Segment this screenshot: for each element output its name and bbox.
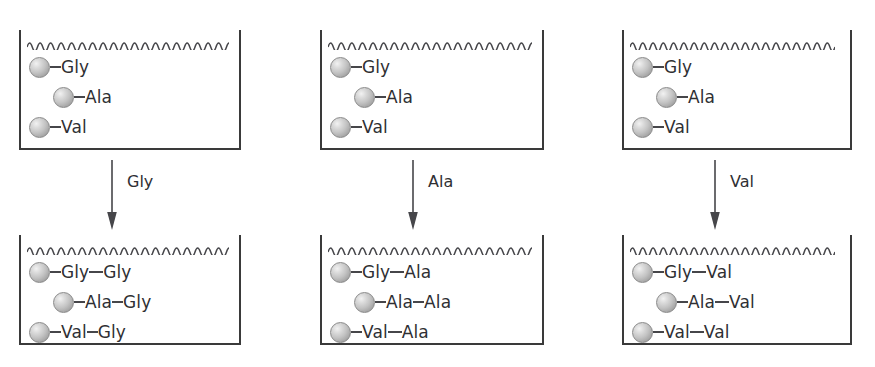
bond-line bbox=[351, 66, 362, 68]
residue-label: Val bbox=[664, 119, 690, 136]
resin-bead-icon bbox=[632, 262, 653, 283]
peptide-bond-line bbox=[89, 271, 103, 273]
synthesis-column-1: Gly Ala Val Gly bbox=[19, 0, 241, 367]
resin-bead-icon bbox=[656, 292, 677, 313]
molecule-row: Ala Val bbox=[624, 287, 850, 317]
bond-line bbox=[351, 126, 362, 128]
residue-label: Ala bbox=[402, 324, 429, 341]
peptide-bond-line bbox=[715, 301, 729, 303]
residue-label: Val bbox=[362, 324, 388, 341]
bond-line bbox=[677, 301, 688, 303]
bond-line bbox=[653, 126, 664, 128]
molecule-row: Gly bbox=[21, 52, 239, 82]
residue-label: Gly bbox=[362, 264, 390, 281]
peptide-bond-line bbox=[692, 271, 706, 273]
resin-bead-icon bbox=[29, 57, 50, 78]
molecule-rows: Gly Val Ala Val Val Val bbox=[624, 257, 850, 347]
reaction-arrow-3: Val bbox=[708, 160, 778, 232]
resin-bead-icon bbox=[53, 292, 74, 313]
bond-line bbox=[351, 331, 362, 333]
reaction-vessel-bottom-3: Gly Val Ala Val Val Val bbox=[622, 235, 852, 345]
residue-label: Gly bbox=[61, 59, 89, 76]
residue-label: Val bbox=[61, 119, 87, 136]
membrane-wave-icon bbox=[27, 38, 229, 50]
resin-bead-icon bbox=[632, 117, 653, 138]
molecule-row: Val Ala bbox=[322, 317, 542, 347]
resin-bead-icon bbox=[632, 57, 653, 78]
bond-line bbox=[653, 66, 664, 68]
residue-label: Val bbox=[664, 324, 690, 341]
resin-bead-icon bbox=[656, 87, 677, 108]
reaction-vessel-top-1: Gly Ala Val bbox=[19, 30, 241, 150]
residue-label: Gly bbox=[362, 59, 390, 76]
molecule-row: Gly Gly bbox=[21, 257, 239, 287]
resin-bead-icon bbox=[330, 262, 351, 283]
membrane-wave-icon bbox=[328, 243, 532, 255]
molecule-row: Ala bbox=[624, 82, 850, 112]
bond-line bbox=[50, 126, 61, 128]
reaction-arrow-label: Val bbox=[730, 172, 754, 191]
resin-bead-icon bbox=[330, 117, 351, 138]
molecule-row: Ala Ala bbox=[322, 287, 542, 317]
reaction-vessel-top-2: Gly Ala Val bbox=[320, 30, 544, 150]
synthesis-column-3: Gly Ala Val Val bbox=[622, 0, 852, 367]
resin-bead-icon bbox=[354, 87, 375, 108]
residue-label: Gly bbox=[61, 264, 89, 281]
bond-line bbox=[351, 271, 362, 273]
molecule-row: Val bbox=[21, 112, 239, 142]
molecule-rows: Gly Ala Ala Ala Val Ala bbox=[322, 257, 542, 347]
molecule-row: Val bbox=[624, 112, 850, 142]
membrane-wave-icon bbox=[630, 38, 840, 50]
residue-label: Val bbox=[704, 324, 730, 341]
residue-label: Ala bbox=[424, 294, 451, 311]
bond-line bbox=[653, 271, 664, 273]
molecule-row: Gly bbox=[322, 52, 542, 82]
peptide-bond-line bbox=[390, 271, 404, 273]
residue-label: Gly bbox=[664, 264, 692, 281]
peptide-bond-line bbox=[413, 301, 424, 303]
bond-line bbox=[74, 301, 85, 303]
residue-label: Ala bbox=[386, 89, 413, 106]
molecule-row: Val Gly bbox=[21, 317, 239, 347]
reaction-arrow-label: Gly bbox=[127, 172, 153, 191]
resin-bead-icon bbox=[354, 292, 375, 313]
molecule-rows: Gly Gly Ala Gly Val Gly bbox=[21, 257, 239, 347]
bond-line bbox=[50, 271, 61, 273]
residue-label: Gly bbox=[123, 294, 151, 311]
peptide-bond-line bbox=[87, 331, 98, 333]
residue-label: Val bbox=[362, 119, 388, 136]
residue-label: Val bbox=[61, 324, 87, 341]
molecule-rows: Gly Ala Val bbox=[624, 52, 850, 142]
molecule-rows: Gly Ala Val bbox=[322, 52, 542, 142]
molecule-row: Ala Gly bbox=[21, 287, 239, 317]
residue-label: Ala bbox=[688, 294, 715, 311]
molecule-row: Val Val bbox=[624, 317, 850, 347]
bond-line bbox=[50, 331, 61, 333]
reaction-vessel-top-3: Gly Ala Val bbox=[622, 30, 852, 150]
reaction-arrow-2: Ala bbox=[406, 160, 476, 232]
residue-label: Val bbox=[729, 294, 755, 311]
residue-label: Gly bbox=[664, 59, 692, 76]
molecule-row: Gly Ala bbox=[322, 257, 542, 287]
residue-label: Gly bbox=[98, 324, 126, 341]
synthesis-column-2: Gly Ala Val Ala bbox=[320, 0, 544, 367]
residue-label: Ala bbox=[85, 89, 112, 106]
molecule-row: Gly Val bbox=[624, 257, 850, 287]
residue-label: Gly bbox=[103, 264, 131, 281]
reaction-arrow-label: Ala bbox=[428, 172, 453, 191]
resin-bead-icon bbox=[29, 262, 50, 283]
molecule-rows: Gly Ala Val bbox=[21, 52, 239, 142]
resin-bead-icon bbox=[29, 322, 50, 343]
peptide-bond-line bbox=[388, 331, 402, 333]
resin-bead-icon bbox=[330, 57, 351, 78]
bond-line bbox=[375, 301, 386, 303]
bond-line bbox=[677, 96, 688, 98]
molecule-row: Gly bbox=[624, 52, 850, 82]
bond-line bbox=[375, 96, 386, 98]
residue-label: Ala bbox=[688, 89, 715, 106]
reaction-vessel-bottom-2: Gly Ala Ala Ala Val Ala bbox=[320, 235, 544, 345]
molecule-row: Ala bbox=[322, 82, 542, 112]
molecule-row: Ala bbox=[21, 82, 239, 112]
residue-label: Ala bbox=[404, 264, 431, 281]
bond-line bbox=[653, 331, 664, 333]
